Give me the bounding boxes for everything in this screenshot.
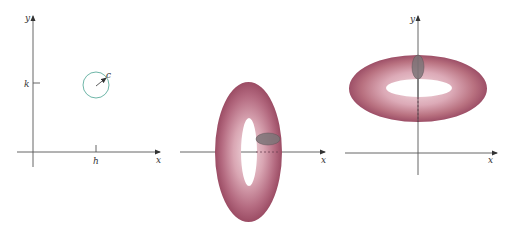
radius-arrow [96, 78, 106, 86]
torus-horizontal-plot: y x [345, 14, 497, 175]
cross-section [412, 55, 424, 79]
y-axis-label: y [24, 13, 31, 23]
x-axis-label: x [321, 155, 326, 165]
torus-vertical-plot: x [180, 82, 326, 222]
radius-label: c [106, 70, 111, 80]
circle-plot: y x h k c [17, 13, 161, 167]
cross-section [256, 133, 280, 145]
x-axis-label: x [156, 155, 161, 165]
k-tick-label: k [24, 79, 29, 89]
figure-canvas: y x h k c x y x [0, 0, 509, 234]
y-axis-label: y [409, 14, 416, 24]
x-axis-label: x [488, 155, 493, 165]
h-tick-label: h [93, 156, 99, 166]
